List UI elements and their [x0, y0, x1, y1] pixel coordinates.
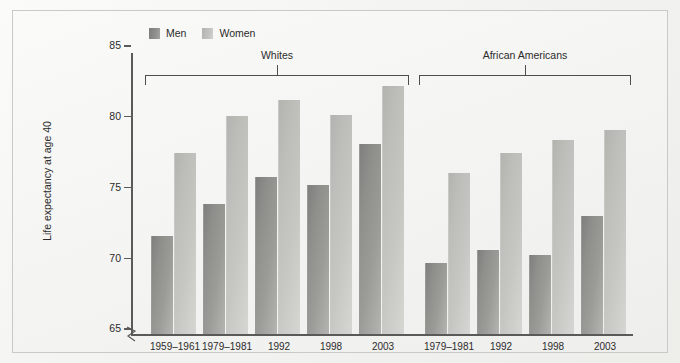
bracket-stem	[277, 65, 278, 75]
bracket-label-whites: Whites	[261, 49, 293, 61]
x-label-1959–1961: 1959–1961	[150, 341, 200, 352]
bar-women-african-americans-1998	[552, 140, 574, 334]
bar-men-whites-1992	[255, 177, 277, 334]
bar-women-african-americans-1992	[500, 153, 522, 334]
y-tick-label-75: 75	[109, 181, 121, 193]
bar-men-african-americans-1998	[529, 255, 551, 334]
bar-women-african-americans-2003	[604, 130, 626, 334]
plot-area: Men Women 6570758085 Life expectancy at …	[131, 31, 633, 331]
x-label-1979–1981: 1979–1981	[424, 341, 474, 352]
x-label-1992: 1992	[490, 341, 512, 352]
y-tick-label-85: 85	[109, 39, 121, 51]
bar-men-whites-1998	[307, 185, 329, 334]
bracket-label-african-americans: African Americans	[483, 49, 568, 61]
x-label-1992: 1992	[268, 341, 290, 352]
bar-men-african-americans-1979–1981	[425, 263, 447, 334]
y-tick-label-70: 70	[109, 252, 121, 264]
bar-men-african-americans-1992	[477, 250, 499, 334]
bar-women-whites-1998	[330, 115, 352, 334]
bar-women-whites-2003	[382, 86, 404, 334]
bar-women-whites-1979–1981	[226, 116, 248, 334]
y-tick-75	[124, 187, 131, 189]
bar-women-african-americans-1979–1981	[448, 173, 470, 334]
bar-women-whites-1992	[278, 100, 300, 334]
x-label-2003: 2003	[594, 341, 616, 352]
bracket-stem	[525, 65, 526, 75]
y-tick-85	[124, 45, 131, 47]
bar-men-african-americans-2003	[581, 216, 603, 334]
x-label-2003: 2003	[372, 341, 394, 352]
y-axis-label: Life expectancy at age 40	[41, 121, 53, 241]
bar-men-whites-1979–1981	[203, 204, 225, 334]
x-label-1998: 1998	[320, 341, 342, 352]
bracket-african-americans	[419, 75, 631, 85]
figure-canvas: Men Women 6570758085 Life expectancy at …	[0, 0, 680, 363]
bracket-whites	[145, 75, 409, 85]
x-axis-line	[131, 334, 633, 336]
bar-men-whites-2003	[359, 144, 381, 334]
y-tick-70	[124, 258, 131, 260]
x-label-1979–1981: 1979–1981	[202, 341, 252, 352]
bar-men-whites-1959–1961	[151, 236, 173, 334]
y-tick-80	[124, 116, 131, 118]
x-label-1998: 1998	[542, 341, 564, 352]
y-tick-label-65: 65	[109, 322, 121, 334]
bar-women-whites-1959–1961	[174, 153, 196, 334]
y-tick-label-80: 80	[109, 110, 121, 122]
chart-frame: Men Women 6570758085 Life expectancy at …	[12, 10, 668, 353]
